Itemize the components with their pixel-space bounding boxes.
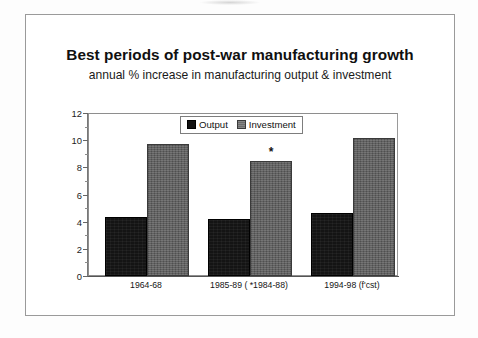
x-tick-label-1994-98: 1994-98 (f'cst) [324,280,379,290]
x-tick-label-1964-68: 1964-68 [130,280,162,290]
y-tick-minor-1 [85,262,88,263]
y-tick-label-10: 10 [60,135,82,146]
y-tick-minor-7 [85,181,88,182]
x-tick-label-1985-89: 1985-89 ( *1984-88) [210,280,288,290]
asterisk-annotation: * [269,148,274,156]
investment-swatch-icon [237,120,246,129]
legend-label-output: Output [199,119,228,130]
y-tick-mark-10 [83,140,88,141]
bar-output-1985-89[interactable] [208,219,250,276]
x-axis-labels: 1964-68 1985-89 ( *1984-88) 1994-98 (f'c… [88,280,398,296]
bar-investment-1985-89[interactable] [250,161,292,276]
bars-layer: * [89,114,397,276]
y-tick-minor-11 [85,127,88,128]
y-tick-label-8: 8 [60,162,82,173]
y-tick-mark-12 [83,113,88,114]
y-tick-mark-8 [83,167,88,168]
y-tick-label-6: 6 [60,189,82,200]
legend-item-investment[interactable]: Investment [237,119,296,130]
y-tick-mark-6 [83,195,88,196]
chart-title-block: Best periods of post-war manufacturing g… [25,46,455,82]
y-axis-labels: 12 10 8 6 4 2 0 [58,0,82,338]
y-tick-label-4: 4 [60,216,82,227]
chart-title: Best periods of post-war manufacturing g… [25,46,455,64]
chart-legend: Output Investment [180,116,303,134]
bar-investment-1964-68[interactable] [147,144,189,276]
y-tick-label-12: 12 [60,108,82,119]
output-swatch-icon [187,120,196,129]
y-tick-minor-3 [85,235,88,236]
y-tick-label-2: 2 [60,243,82,254]
y-tick-mark-2 [83,249,88,250]
bar-investment-1994-98[interactable] [353,138,395,276]
scan-artifact [200,0,260,5]
y-tick-mark-4 [83,222,88,223]
x-axis-line [87,276,399,277]
scanned-slide-page: Best periods of post-war manufacturing g… [0,0,478,338]
y-tick-label-0: 0 [60,271,82,282]
legend-item-output[interactable]: Output [187,119,228,130]
y-tick-minor-5 [85,208,88,209]
bar-output-1964-68[interactable] [105,217,147,276]
y-tick-minor-9 [85,154,88,155]
legend-label-investment: Investment [249,119,296,130]
y-tick-mark-0 [83,276,88,277]
bar-output-1994-98[interactable] [311,213,353,276]
chart-subtitle: annual % increase in manufacturing outpu… [25,68,455,82]
